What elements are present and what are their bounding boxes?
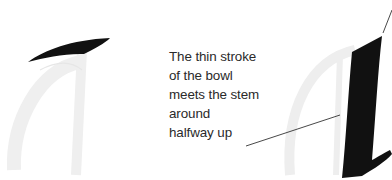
annotation-caption: The thin stroke of the bowl meets the st… [169, 47, 309, 142]
leader-line-top [383, 10, 392, 33]
caption-line: halfway up [169, 123, 309, 142]
stem-stroke [342, 36, 392, 178]
caption-line: meets the stem [169, 85, 309, 104]
letter-anatomy-diagram: The thin stroke of the bowl meets the st… [0, 0, 392, 180]
ghost-letter-a-left [14, 50, 82, 175]
caption-line: of the bowl [169, 66, 309, 85]
caption-line: around [169, 104, 309, 123]
caption-line: The thin stroke [169, 47, 309, 66]
